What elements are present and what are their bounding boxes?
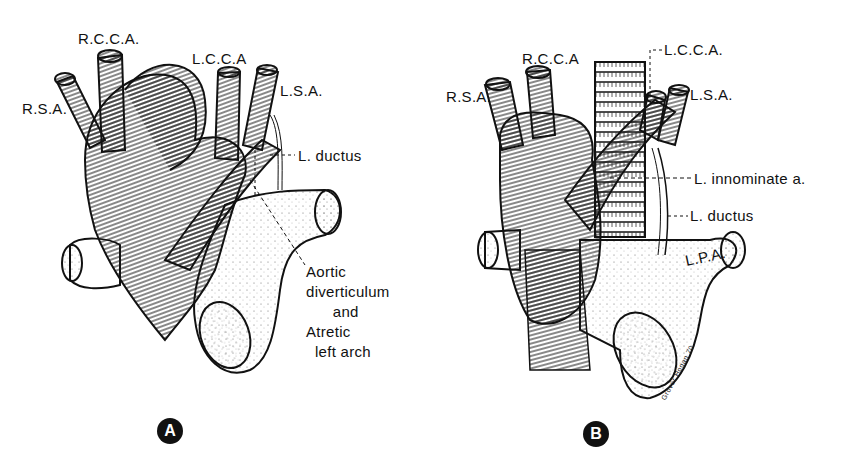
label-ductus-a: L. ductus <box>298 147 362 164</box>
label-ductus-b: L. ductus <box>690 207 754 224</box>
aortic-arch-drawing-b <box>430 0 844 467</box>
label-rsa-b: R.S.A. <box>446 88 491 105</box>
label-aortic-diverticulum: Aortic diverticulum and Atretic left arc… <box>306 262 390 362</box>
label-rsa-a: R.S.A. <box>22 100 67 117</box>
panel-a: R.S.A. R.C.C.A. L.C.C.A L.S.A. L. ductus… <box>0 0 420 467</box>
label-lsa-b: L.S.A. <box>690 86 733 103</box>
panel-badge-b: B <box>583 421 609 447</box>
panel-badge-a: A <box>157 418 183 444</box>
label-lcca-b: L.C.C.A. <box>664 41 723 58</box>
label-rcca-b: R.C.C.A <box>522 50 579 67</box>
panel-b: R.S.A. R.C.C.A L.C.C.A. L.S.A. L. innomi… <box>430 0 844 467</box>
label-innominate-b: L. innominate a. <box>694 170 806 187</box>
aortic-arch-drawing-a <box>0 0 420 467</box>
label-lsa-a: L.S.A. <box>280 82 323 99</box>
label-rcca-a: R.C.C.A. <box>78 30 140 47</box>
label-lcca-a: L.C.C.A <box>192 50 247 67</box>
